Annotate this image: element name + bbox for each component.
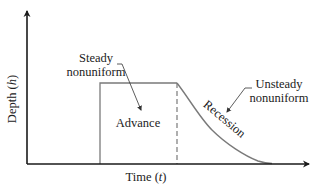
- unsteady-leader-arrow: [227, 88, 252, 112]
- x-axis-label: Time (t): [126, 170, 167, 184]
- irrigation-phase-diagram: Depth (h) Time (t) Steady nonuniform Uns…: [0, 0, 319, 194]
- unsteady-label-line2: nonuniform: [249, 91, 308, 105]
- y-axis-label: Depth (h): [5, 75, 19, 123]
- recession-label: Recession: [201, 97, 249, 141]
- advance-label: Advance: [116, 116, 161, 130]
- steady-label-line1: Steady: [79, 51, 114, 65]
- steady-label-line2: nonuniform: [66, 65, 125, 79]
- unsteady-label-line1: Unsteady: [255, 77, 303, 91]
